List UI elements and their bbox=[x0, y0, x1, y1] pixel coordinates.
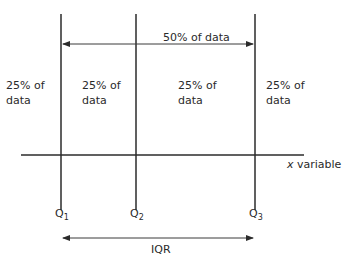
q1-label: Q1 bbox=[55, 207, 69, 222]
region-label-3: 25% of data bbox=[178, 78, 217, 108]
region-3-line2: data bbox=[178, 93, 217, 108]
x-axis-rest: variable bbox=[294, 158, 342, 171]
fifty-percent-label: 50% of data bbox=[163, 30, 230, 45]
q3-letter: Q bbox=[249, 207, 258, 220]
q2-label: Q2 bbox=[130, 207, 144, 222]
region-label-4: 25% of data bbox=[266, 78, 305, 108]
q3-sub: 3 bbox=[258, 213, 263, 222]
region-2-line1: 25% of bbox=[82, 78, 121, 93]
region-1-line1: 25% of bbox=[6, 78, 45, 93]
q2-letter: Q bbox=[130, 207, 139, 220]
iqr-label: IQR bbox=[151, 242, 171, 257]
q2-sub: 2 bbox=[139, 213, 144, 222]
region-4-line2: data bbox=[266, 93, 305, 108]
q3-label: Q3 bbox=[249, 207, 263, 222]
region-label-2: 25% of data bbox=[82, 78, 121, 108]
region-1-line2: data bbox=[6, 93, 45, 108]
region-label-1: 25% of data bbox=[6, 78, 45, 108]
x-axis-label: x variable bbox=[287, 157, 341, 172]
region-3-line1: 25% of bbox=[178, 78, 217, 93]
q1-sub: 1 bbox=[64, 213, 69, 222]
region-4-line1: 25% of bbox=[266, 78, 305, 93]
region-2-line2: data bbox=[82, 93, 121, 108]
q1-letter: Q bbox=[55, 207, 64, 220]
